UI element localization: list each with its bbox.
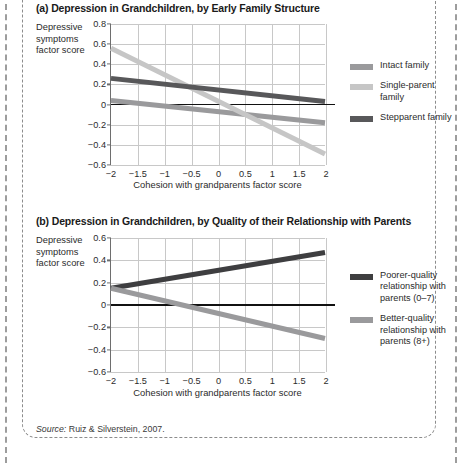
series-line: [111, 288, 325, 338]
series-layer: [111, 238, 325, 372]
panel-b-title: (b) Depression in Grandchildren, by Qual…: [36, 215, 411, 227]
legend-item: Better-quality relationship with parents…: [350, 313, 446, 347]
legend-label: Intact family: [380, 60, 429, 71]
y-tick-label: −0.6: [88, 367, 106, 377]
panel-a-title: (a) Depression in Grandchildren, by Earl…: [36, 2, 320, 14]
x-tick-label: 1: [270, 376, 275, 386]
series-line: [111, 78, 325, 101]
panel-b-plot-area: −2−1.5−1−0.500.511.520.60.40.20−0.2−0.4−…: [110, 238, 325, 372]
legend-label: Poorer-quality relationship with parents…: [380, 270, 446, 304]
source-label: Source:: [36, 424, 66, 434]
y-tick-label: 0.4: [93, 59, 106, 69]
source-note: Source: Ruiz & Silverstein, 2007.: [36, 424, 165, 434]
x-tick-label: −0.5: [183, 376, 201, 386]
x-tick-label: −2: [106, 169, 116, 179]
series-layer: [111, 24, 325, 165]
y-tick-label: −0.4: [88, 345, 106, 355]
legend-swatch: [350, 116, 373, 122]
gridline-vertical: [326, 24, 327, 165]
y-tick-label: 0: [101, 100, 106, 110]
x-tick-label: 1.5: [293, 376, 306, 386]
y-tick-label: −0.6: [88, 160, 106, 170]
gridline-horizontal: [111, 372, 325, 373]
x-tick-label: 0: [216, 169, 221, 179]
legend-item: Stepparent family: [350, 112, 452, 123]
panel-a-y-axis-caption: Depressive symptoms factor score: [36, 22, 85, 57]
y-tick-label: −0.2: [88, 120, 106, 130]
legend-label: Single-parent family: [380, 80, 435, 103]
legend-label: Better-quality relationship with parents…: [380, 313, 446, 347]
y-tick-label: 0.2: [93, 278, 106, 288]
series-line: [111, 253, 325, 289]
legend-swatch: [350, 64, 373, 70]
panel-b-x-axis-caption: Cohesion with grandparents factor score: [110, 387, 325, 398]
legend-swatch: [350, 274, 373, 280]
page-margin-rule-left: [5, 0, 7, 463]
series-line: [111, 101, 325, 123]
y-caption-line-2: symptoms: [36, 34, 85, 46]
y-tick-label: −0.4: [88, 140, 106, 150]
series-line: [111, 48, 325, 154]
x-tick-label: −2: [106, 376, 116, 386]
panel-a: (a) Depression in Grandchildren, by Earl…: [36, 2, 456, 197]
x-tick-label: 0.5: [239, 376, 252, 386]
x-tick-label: −1: [160, 169, 170, 179]
y-caption-line-1: Depressive: [36, 235, 85, 247]
x-tick-label: 1.5: [293, 169, 306, 179]
x-tick-label: 0.5: [239, 169, 252, 179]
x-tick-label: 1: [270, 169, 275, 179]
gridline-horizontal: [111, 165, 325, 166]
y-caption-line-3: factor score: [36, 258, 85, 270]
y-tick-label: 0.8: [93, 19, 106, 29]
panel-a-chart: −2−1.5−1−0.500.511.520.80.60.40.20−0.2−0…: [110, 24, 325, 165]
y-tick-label: 0.2: [93, 79, 106, 89]
x-tick-label: −1.5: [129, 376, 147, 386]
x-tick-label: −0.5: [183, 169, 201, 179]
x-tick-label: −1.5: [129, 169, 147, 179]
panel-a-legend: Intact familySingle-parent familySteppar…: [350, 60, 456, 150]
x-tick-label: −1: [160, 376, 170, 386]
panel-b-chart: −2−1.5−1−0.500.511.520.60.40.20−0.2−0.4−…: [110, 238, 325, 372]
panel-b-legend: Poorer-quality relationship with parents…: [350, 270, 460, 370]
y-tick-label: −0.2: [88, 322, 106, 332]
panel-a-x-axis-caption: Cohesion with grandparents factor score: [110, 179, 325, 190]
y-tick-label: 0.6: [93, 233, 106, 243]
legend-item: Poorer-quality relationship with parents…: [350, 270, 446, 304]
y-tick-label: 0: [101, 300, 106, 310]
panel-b: (b) Depression in Grandchildren, by Qual…: [36, 215, 456, 415]
x-tick-label: 2: [323, 169, 328, 179]
legend-label: Stepparent family: [380, 112, 452, 123]
legend-item: Intact family: [350, 60, 429, 71]
y-caption-line-2: symptoms: [36, 247, 85, 259]
y-caption-line-1: Depressive: [36, 22, 85, 34]
panel-b-y-axis-caption: Depressive symptoms factor score: [36, 235, 85, 270]
x-tick-label: 2: [323, 376, 328, 386]
y-tick-label: 0.4: [93, 255, 106, 265]
legend-swatch: [350, 317, 373, 323]
legend-swatch: [350, 84, 373, 90]
x-tick-label: 0: [216, 376, 221, 386]
y-tick-label: 0.6: [93, 39, 106, 49]
source-citation: Ruiz & Silverstein, 2007.: [66, 424, 164, 434]
panel-a-plot-area: −2−1.5−1−0.500.511.520.80.60.40.20−0.2−0…: [110, 24, 325, 165]
y-caption-line-3: factor score: [36, 45, 85, 57]
legend-item: Single-parent family: [350, 80, 435, 103]
